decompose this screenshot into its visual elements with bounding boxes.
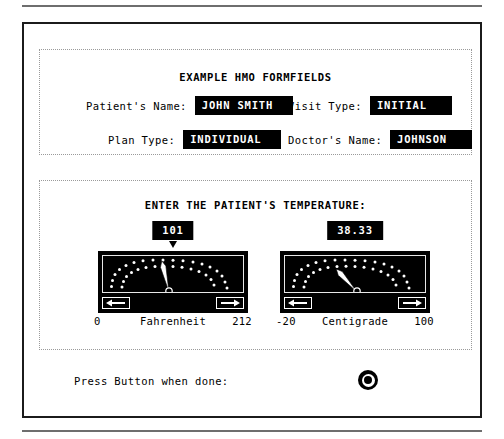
- gauge-centigrade-decrement-button[interactable]: [284, 297, 312, 309]
- temperature-group: ENTER THE PATIENT'S TEMPERATURE: 101: [39, 180, 472, 350]
- arrow-left-icon: [106, 299, 126, 307]
- gauge-centigrade-scale: -20 Centigrade 100: [280, 315, 430, 331]
- arrow-right-icon: [402, 299, 422, 307]
- gauge-centigrade-unit-label: Centigrade: [280, 315, 430, 327]
- gauge-fahrenheit-dial-graphic: [103, 256, 243, 292]
- field-patient-name: Patient's Name: JOHN SMITH: [86, 96, 293, 115]
- field-label-doctor-name: Doctor's Name:: [288, 134, 382, 146]
- submit-prompt-label: Press Button when done:: [74, 375, 229, 387]
- submit-button[interactable]: [358, 370, 378, 390]
- field-label-visit-type: Visit Type:: [288, 100, 362, 112]
- gauge-fahrenheit-increment-button[interactable]: [216, 297, 244, 309]
- gauge-fahrenheit-unit-label: Fahrenheit: [98, 315, 248, 327]
- field-plan-type: Plan Type: INDIVIDUAL: [108, 130, 281, 149]
- temperature-section-title: ENTER THE PATIENT'S TEMPERATURE:: [40, 199, 471, 211]
- gauge-fahrenheit-dial: [102, 255, 244, 293]
- field-input-visit-type[interactable]: INITIAL: [370, 96, 452, 115]
- gauge-fahrenheit-scale-max: 212: [232, 315, 252, 327]
- gauge-centigrade: 38.33: [275, 221, 435, 331]
- field-doctor-name: Doctor's Name: JOHNSON: [288, 130, 472, 149]
- page-rule-bottom: [22, 430, 482, 432]
- form-fields-group: EXAMPLE HMO FORMFIELDS Patient's Name: J…: [39, 49, 472, 155]
- main-panel: EXAMPLE HMO FORMFIELDS Patient's Name: J…: [22, 22, 482, 418]
- gauge-centigrade-dial-graphic: [285, 256, 425, 292]
- field-input-plan-type[interactable]: INDIVIDUAL: [183, 130, 281, 149]
- field-input-doctor-name[interactable]: JOHNSON: [390, 130, 472, 149]
- form-section-title: EXAMPLE HMO FORMFIELDS: [40, 71, 471, 83]
- arrow-left-icon: [288, 299, 308, 307]
- field-label-patient-name: Patient's Name:: [86, 100, 187, 112]
- gauge-centigrade-scale-max: 100: [414, 315, 434, 327]
- page-rule-top: [22, 5, 482, 7]
- field-visit-type: Visit Type: INITIAL: [288, 96, 452, 115]
- gauge-fahrenheit: 101: [93, 221, 253, 331]
- gauge-centigrade-increment-button[interactable]: [398, 297, 426, 309]
- arrow-right-icon: [220, 299, 240, 307]
- gauge-fahrenheit-readout[interactable]: 101: [152, 221, 193, 240]
- gauge-fahrenheit-body: [98, 251, 248, 313]
- gauge-centigrade-readout-wrap: 38.33: [275, 221, 435, 247]
- gauge-centigrade-dial: [284, 255, 426, 293]
- field-label-plan-type: Plan Type:: [108, 134, 175, 146]
- gauge-centigrade-body: [280, 251, 430, 313]
- gauge-fahrenheit-scale: 0 Fahrenheit 212: [98, 315, 248, 331]
- gauge-fahrenheit-decrement-button[interactable]: [102, 297, 130, 309]
- gauge-fahrenheit-readout-pointer-icon: [169, 241, 177, 248]
- gauge-centigrade-readout[interactable]: 38.33: [327, 221, 383, 240]
- gauge-fahrenheit-readout-wrap: 101: [93, 221, 253, 247]
- field-input-patient-name[interactable]: JOHN SMITH: [195, 96, 293, 115]
